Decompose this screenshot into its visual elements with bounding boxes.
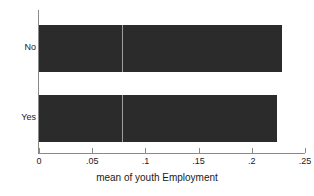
x-axis-tick-label: 0 (36, 156, 41, 167)
x-axis-title: mean of youth Employment (0, 172, 314, 184)
reference-line-no (122, 25, 123, 72)
x-axis-tick-label: .05 (86, 156, 99, 167)
bar-yes (39, 95, 277, 142)
x-axis-tick-mark (39, 148, 40, 153)
x-axis-tick-label: .25 (299, 156, 312, 167)
x-axis-tick-label: .2 (248, 156, 256, 167)
bar-chart: No Yes 0.05.1.15.2.25 mean of youth Empl… (0, 0, 314, 196)
x-axis-tick-mark (305, 148, 306, 153)
reference-line-yes (122, 95, 123, 142)
y-axis-tick-label-no: No (24, 42, 36, 53)
x-axis-tick-mark (145, 148, 146, 153)
x-axis-tick-label: .1 (142, 156, 150, 167)
x-axis-tick-mark (252, 148, 253, 153)
x-axis-line (38, 153, 305, 154)
x-axis-tick-label: .15 (192, 156, 205, 167)
x-axis-tick-mark (199, 148, 200, 153)
y-axis-tick-label-yes: Yes (21, 112, 36, 123)
x-axis-tick-mark (92, 148, 93, 153)
bar-no (39, 25, 282, 72)
